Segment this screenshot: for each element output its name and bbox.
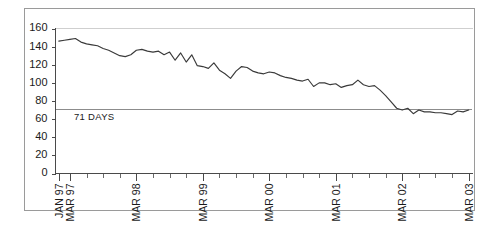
y-tick-label: 100 xyxy=(29,76,47,88)
reference-line-label: 71 DAYS xyxy=(74,111,114,122)
x-tick-label: MAR 98 xyxy=(130,183,142,221)
y-tick-label: 40 xyxy=(35,130,47,142)
x-tick-label: MAR 02 xyxy=(396,183,408,221)
y-tick-label: 160 xyxy=(29,21,47,33)
y-tick-label: 120 xyxy=(29,58,47,70)
line-chart: 71 DAYS 020406080100120140160 JAN 97MAR … xyxy=(0,0,499,249)
y-tick-label: 20 xyxy=(35,148,47,160)
x-tick-label: MAR 03 xyxy=(463,183,475,221)
y-tick-label: 60 xyxy=(35,112,47,124)
x-tick-label: MAR 99 xyxy=(197,183,209,221)
y-tick-label: 0 xyxy=(41,166,47,178)
x-tick-label: MAR 97 xyxy=(64,183,76,221)
x-tick-label: MAR 01 xyxy=(330,183,342,221)
x-tick-label: MAR 00 xyxy=(263,183,275,221)
chart-figure: 71 DAYS 020406080100120140160 JAN 97MAR … xyxy=(0,0,499,249)
y-tick-label: 140 xyxy=(29,40,47,52)
y-tick-label: 80 xyxy=(35,94,47,106)
